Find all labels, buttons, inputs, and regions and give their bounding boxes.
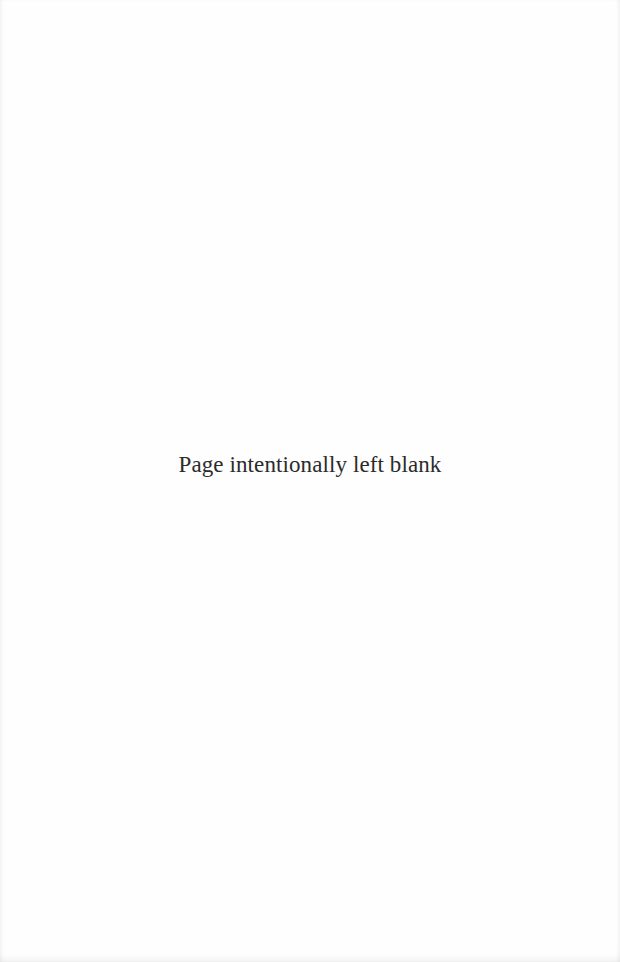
document-page: Page intentionally left blank [0, 0, 620, 962]
blank-page-notice: Page intentionally left blank [0, 452, 620, 478]
